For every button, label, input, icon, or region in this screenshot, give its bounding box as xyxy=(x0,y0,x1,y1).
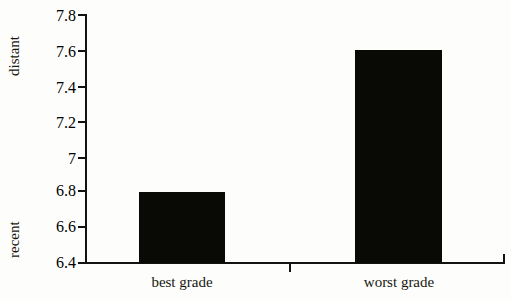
y-tick-label-7: 7 xyxy=(0,150,76,168)
x-axis-end-cap xyxy=(503,254,505,264)
y-tick-label-7-2: 7.2 xyxy=(0,114,76,132)
y-tick-label-7-8: 7.8 xyxy=(0,7,76,25)
y-axis-line xyxy=(85,14,87,264)
y-tick-label-7-4: 7.4 xyxy=(0,79,76,97)
y-tick-label-6-6: 6.6 xyxy=(0,218,76,236)
x-category-label-worst-grade: worst grade xyxy=(328,274,470,291)
bar-chart: distant recent 7.8 7.6 7.4 7.2 7 6.8 6.6… xyxy=(0,0,511,301)
y-tick-label-6-4: 6.4 xyxy=(0,254,76,272)
x-category-label-best-grade: best grade xyxy=(112,274,252,291)
x-tick-mark-middle xyxy=(289,263,291,272)
y-tick-label-6-8: 6.8 xyxy=(0,182,76,200)
y-tick-label-7-6: 7.6 xyxy=(0,43,76,61)
bar-worst-grade xyxy=(355,50,442,263)
bar-best-grade xyxy=(139,192,225,263)
